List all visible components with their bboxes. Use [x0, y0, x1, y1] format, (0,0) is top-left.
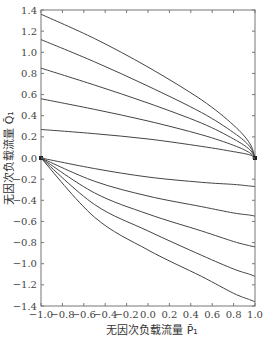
- y-tick-label: 0.2: [21, 131, 37, 142]
- y-tick-label: −0.4: [13, 195, 37, 206]
- y-tick-label: −1.4: [13, 301, 37, 312]
- plot-area: [41, 10, 255, 306]
- y-tick-label: 0.4: [21, 110, 37, 121]
- x-tick-label: 0.2: [161, 309, 177, 320]
- series-line-upper-2: [41, 40, 255, 158]
- y-tick-label: 0.0: [21, 153, 37, 164]
- y-tick-label: −0.2: [13, 174, 37, 185]
- x-tick-label: 0.8: [226, 309, 242, 320]
- x-tick-label: 0.0: [140, 309, 156, 320]
- series-line-upper-4: [41, 99, 255, 158]
- y-tick-label: 0.8: [21, 68, 37, 79]
- y-tick-label: −1.2: [13, 279, 37, 290]
- series-line-lower-3: [41, 158, 255, 247]
- y-tick-label: −0.8: [13, 237, 37, 248]
- y-axis-ticks: 1.41.21.00.80.60.40.20.0−0.2−0.4−0.6−0.8…: [13, 5, 255, 312]
- series-line-upper-3: [41, 68, 255, 158]
- y-tick-label: 1.0: [21, 47, 37, 58]
- y-tick-label: 1.2: [21, 26, 37, 37]
- x-tick-label: 0.6: [204, 309, 220, 320]
- x-tick-label: −0.2: [114, 309, 138, 320]
- y-tick-label: −1.0: [13, 258, 37, 269]
- x-tick-label: 0.4: [183, 309, 199, 320]
- x-tick-label: 1.0: [247, 309, 263, 320]
- y-tick-label: 1.4: [21, 5, 37, 16]
- plot-frame: [41, 10, 255, 306]
- series-line-lower-4: [41, 158, 255, 276]
- x-axis-label: 无因次负载流量 P̄₁: [106, 323, 198, 337]
- series-group: [39, 14, 257, 302]
- y-axis-label: 无因次负载流量 Q̄₁: [2, 111, 16, 205]
- y-tick-label: 0.6: [21, 89, 37, 100]
- y-tick-label: −0.6: [13, 216, 37, 227]
- chart: −1.0−0.8−0.6−0.4−0.20.00.20.40.60.81.0 1…: [0, 0, 263, 340]
- x-axis-ticks: −1.0−0.8−0.6−0.4−0.20.00.20.40.60.81.0: [29, 10, 263, 320]
